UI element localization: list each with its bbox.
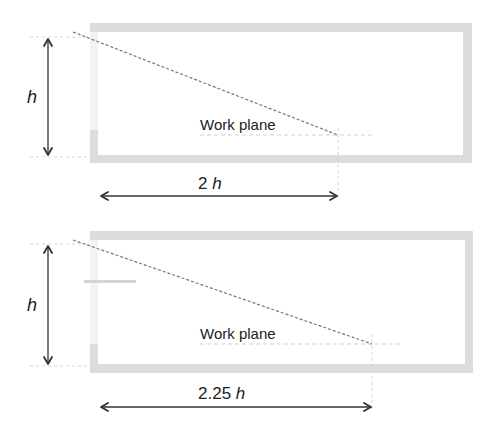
height-label: h <box>27 87 37 107</box>
room-section-top: h Work plane 2 h <box>27 23 472 200</box>
depth-label: 2 h <box>198 174 222 193</box>
work-plane-label: Work plane <box>200 325 276 342</box>
floor-wall <box>90 364 473 373</box>
ceiling-wall <box>90 23 472 32</box>
back-wall <box>463 23 472 163</box>
depth-label: 2.25 h <box>198 384 245 403</box>
window-opening <box>90 32 98 130</box>
room-section-bottom: h Work plane 2.25 h <box>27 231 473 410</box>
window-sill-wall <box>90 130 98 163</box>
floor-wall <box>90 155 472 163</box>
daylight-depth-diagram: h Work plane 2 h h Work plane 2.25 h <box>0 0 493 431</box>
ceiling-wall <box>90 231 473 240</box>
back-wall <box>465 231 473 373</box>
window-opening <box>90 240 98 344</box>
light-shelf <box>84 280 136 283</box>
work-plane-label: Work plane <box>200 116 276 133</box>
window-sill-wall <box>90 344 98 373</box>
height-label: h <box>27 295 37 315</box>
